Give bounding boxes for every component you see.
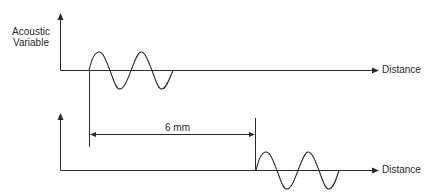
distance-label: 6 mm [165, 122, 190, 133]
top-x-axis-arrow-icon [372, 68, 379, 74]
bottom-x-axis-label: Distance [382, 164, 421, 175]
y-axis-label-line2: Variable [9, 37, 53, 48]
dimension-right-arrow-icon [249, 132, 255, 137]
top-x-axis-label: Distance [382, 64, 421, 75]
bottom-axes [58, 113, 380, 174]
top-y-axis-arrow-icon [58, 13, 64, 20]
bottom-y-axis-arrow-icon [58, 113, 64, 120]
top-axes [58, 13, 380, 74]
dimension-left-arrow-icon [90, 132, 96, 137]
bottom-x-axis-arrow-icon [372, 168, 379, 174]
y-axis-label-line1: Acoustic [9, 26, 53, 37]
y-axis-label: Acoustic Variable [9, 26, 53, 48]
wave-diagram [0, 0, 436, 196]
